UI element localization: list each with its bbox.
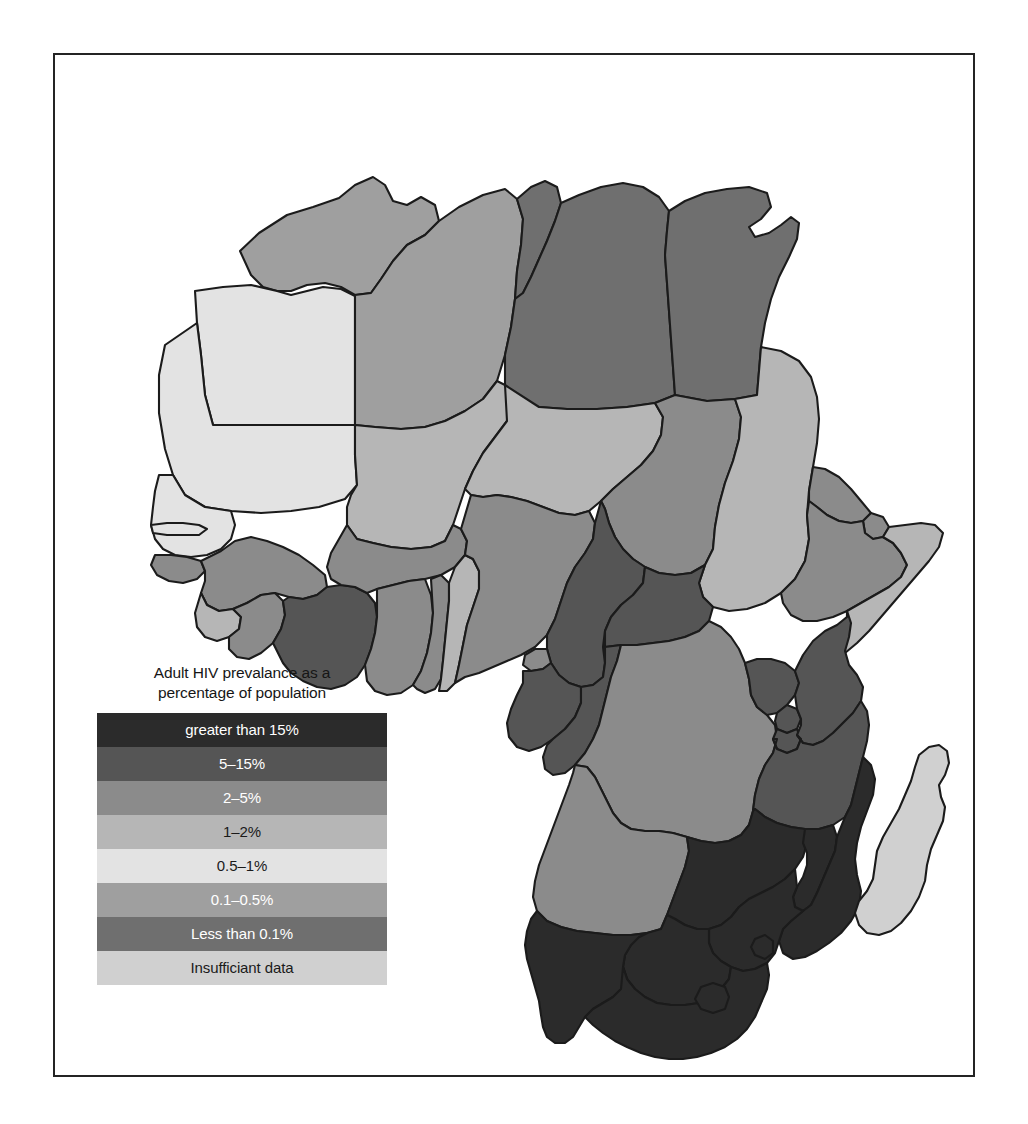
figure-root: Adult HIV prevalance as a percentage of … <box>0 0 1028 1124</box>
legend-title-line-2: percentage of population <box>97 683 387 703</box>
legend-row-1-2[interactable]: 1–2% <box>97 815 387 849</box>
region-guinea-bissau[interactable] <box>151 555 205 583</box>
legend-title: Adult HIV prevalance as a percentage of … <box>97 663 387 704</box>
region-gambia[interactable] <box>151 523 207 535</box>
region-swaziland[interactable] <box>751 935 773 959</box>
region-lesotho[interactable] <box>695 983 729 1013</box>
legend-row-0point5-1[interactable]: 0.5–1% <box>97 849 387 883</box>
legend-row-0point1-0point5[interactable]: 0.1–0.5% <box>97 883 387 917</box>
legend-row-5-15[interactable]: 5–15% <box>97 747 387 781</box>
legend-row-2-5[interactable]: 2–5% <box>97 781 387 815</box>
map-legend: Adult HIV prevalance as a percentage of … <box>97 663 387 985</box>
legend-title-line-1: Adult HIV prevalance as a <box>97 663 387 683</box>
figure-frame: Adult HIV prevalance as a percentage of … <box>53 53 975 1077</box>
region-western-sahara[interactable] <box>195 285 355 425</box>
legend-row-insufficiant-data[interactable]: Insufficiant data <box>97 951 387 985</box>
legend-row-less-than-0point1[interactable]: Less than 0.1% <box>97 917 387 951</box>
legend-swatch-list: greater than 15% 5–15% 2–5% 1–2% 0.5–1% … <box>97 713 387 985</box>
legend-row-greater-than-15[interactable]: greater than 15% <box>97 713 387 747</box>
